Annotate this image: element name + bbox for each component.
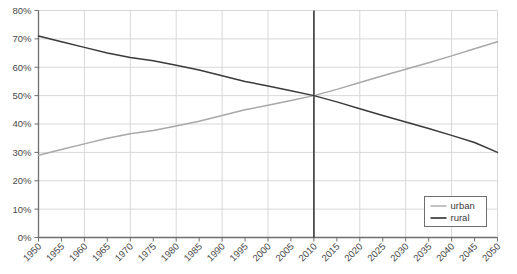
- y-axis-label: 70%: [12, 33, 32, 44]
- y-axis-label: 0%: [18, 232, 32, 243]
- y-axis-label: 20%: [12, 175, 32, 186]
- y-axis-labels: 0%10%20%30%40%50%60%70%80%: [12, 5, 32, 243]
- urbanization-line-chart: 0%10%20%30%40%50%60%70%80% 1950195519601…: [0, 0, 517, 274]
- y-axis-label: 50%: [12, 90, 32, 101]
- y-axis-label: 40%: [12, 118, 32, 129]
- y-axis-label: 60%: [12, 62, 32, 73]
- y-axis-label: 80%: [12, 5, 32, 16]
- x-axis-ticks: [39, 238, 498, 242]
- legend: urbanrural: [425, 197, 487, 227]
- legend-label-rural: rural: [451, 212, 470, 223]
- chart-container: 0%10%20%30%40%50%60%70%80% 1950195519601…: [0, 0, 517, 274]
- y-axis-label: 10%: [12, 204, 32, 215]
- y-axis-label: 30%: [12, 147, 32, 158]
- chart-background: [0, 0, 517, 274]
- legend-label-urban: urban: [451, 200, 475, 211]
